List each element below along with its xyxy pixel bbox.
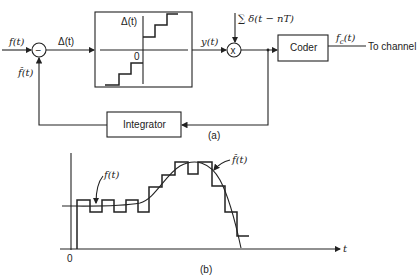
input-label: f(t) — [8, 36, 25, 47]
multiplier-symbol: x — [231, 45, 236, 56]
coder-label: Coder — [290, 42, 318, 53]
caption-a: (a) — [208, 130, 220, 141]
feedback-label: f̂(t) — [17, 67, 34, 78]
error-label: Δ(t) — [58, 36, 74, 47]
approx-label: f̂(t) — [231, 154, 248, 165]
quantizer-output-label: y(t) — [200, 36, 219, 47]
signal-label: f(t) — [103, 169, 120, 180]
integrator-label: Integrator — [123, 119, 166, 130]
quantizer-origin-label: 0 — [134, 51, 140, 62]
quantizer-staircase-negative — [105, 63, 143, 85]
quantizer-staircase-positive — [143, 14, 178, 37]
signal-curve — [62, 162, 241, 248]
delta-modulation-figure: f(t) − Δ(t) Δ(t) 0 y(t) x ∑ δ(t − nT) Co… — [0, 0, 420, 279]
coder-output-label: fc(t) — [335, 32, 356, 46]
summer-sign: − — [36, 45, 42, 56]
time-axis-label: t — [343, 243, 348, 254]
caption-b: (b) — [200, 264, 212, 275]
signal-pointer-arrow — [96, 176, 103, 203]
sampling-label: ∑ δ(t − nT) — [238, 13, 294, 24]
block-diagram-a: f(t) − Δ(t) Δ(t) 0 y(t) x ∑ δ(t − nT) Co… — [2, 12, 416, 141]
channel-label: To channel — [368, 41, 416, 52]
waveform-b: 0 t f(t) f̂(t) (b) — [60, 153, 348, 275]
approx-pointer-arrow — [214, 160, 230, 170]
feedback-line-right — [182, 50, 268, 125]
feedback-line-left — [39, 58, 107, 125]
quantizer-axis-label: Δ(t) — [121, 16, 137, 27]
origin-label: 0 — [67, 253, 73, 264]
